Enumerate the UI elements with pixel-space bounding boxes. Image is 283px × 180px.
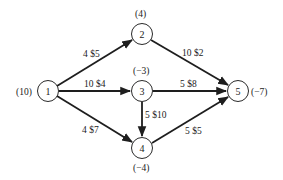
node-2-label: 2 (140, 29, 145, 40)
node-5-label: 5 (236, 86, 241, 97)
edge-label-3-4: 5 $10 (145, 110, 167, 120)
node-1-label: 1 (46, 86, 51, 97)
node-1: 1 (10) (16, 81, 59, 102)
edge-label-3-5: 5 $8 (180, 79, 197, 89)
node-1-supply: (10) (16, 87, 32, 98)
node-3: 3 (−3) (132, 66, 153, 102)
edge-label-1-4: 4 $7 (82, 125, 99, 135)
node-5: 5 (−7) (228, 81, 268, 102)
node-4-label: 4 (140, 143, 145, 154)
edge-label-1-3: 10 $4 (84, 79, 106, 89)
node-5-supply: (−7) (251, 87, 267, 98)
edge-label-2-5: 10 $2 (182, 48, 204, 58)
edge-label-4-5: 5 $5 (185, 126, 202, 136)
node-3-supply: (−3) (133, 66, 149, 77)
edge-4-5 (152, 97, 228, 143)
node-4: 4 (−4) (132, 138, 153, 175)
node-2: 2 (4) (132, 9, 153, 45)
edge-label-1-2: 4 $5 (83, 49, 100, 59)
node-4-supply: (−4) (133, 163, 149, 174)
node-2-supply: (4) (135, 9, 146, 20)
edge-1-4 (57, 96, 132, 142)
node-3-label: 3 (140, 86, 145, 97)
network-diagram: 4 $5 10 $4 4 $7 10 $2 5 $8 5 $10 5 $5 1 … (0, 0, 283, 180)
